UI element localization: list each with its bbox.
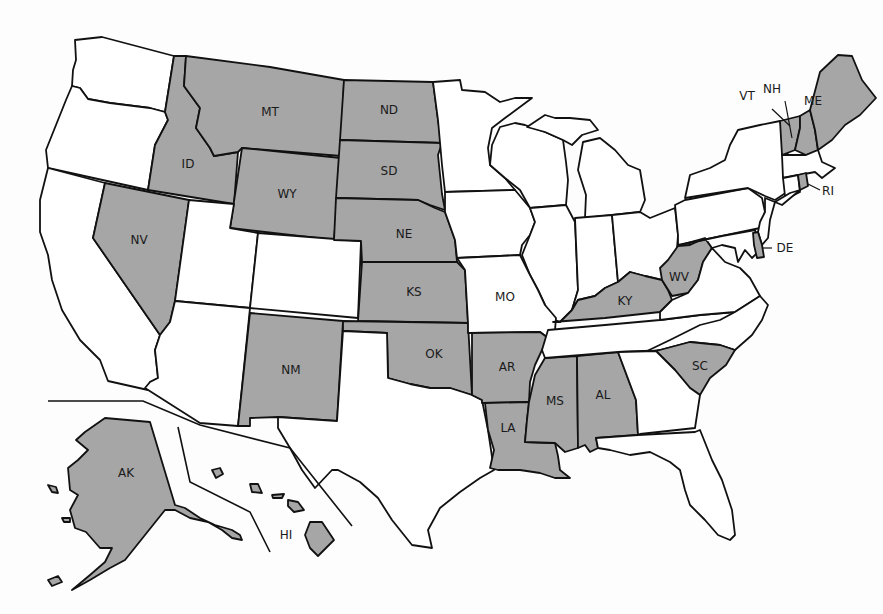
label-vt: VT (739, 89, 755, 103)
state-hi[interactable] (305, 522, 334, 556)
state-ak[interactable] (68, 418, 242, 590)
hawaii-island-kauai (212, 468, 223, 478)
state-ia[interactable] (445, 190, 535, 258)
alaska-island (48, 576, 62, 586)
label-sc: SC (692, 359, 708, 373)
state-fl[interactable] (596, 430, 735, 540)
label-ak: AK (118, 466, 135, 480)
label-ne: NE (396, 227, 413, 241)
us-states-map: MT ND ID WY SD NE NV KS MO NM OK AR LA M… (0, 0, 883, 614)
state-ny[interactable] (685, 121, 792, 200)
label-me: ME (804, 94, 822, 108)
label-id: ID (182, 157, 195, 171)
label-ms: MS (546, 394, 564, 408)
alaska-island (48, 485, 58, 493)
label-ky: KY (618, 294, 633, 308)
label-mo: MO (495, 290, 515, 304)
label-mt: MT (261, 105, 279, 119)
label-hi: HI (280, 528, 293, 542)
label-de: DE (777, 241, 794, 255)
label-ri: RI (822, 184, 834, 198)
hawaii-island-molokai (272, 494, 284, 498)
map-svg: MT ND ID WY SD NE NV KS MO NM OK AR LA M… (0, 0, 883, 614)
label-nh: NH (763, 82, 781, 96)
label-al: AL (596, 388, 611, 402)
alaska-island (62, 518, 70, 522)
leader-ri (808, 184, 820, 190)
hawaii-island-oahu (250, 484, 262, 493)
label-sd: SD (381, 164, 398, 178)
label-nv: NV (130, 233, 148, 247)
label-nm: NM (281, 363, 300, 377)
label-wy: WY (277, 187, 297, 201)
state-co[interactable] (250, 233, 361, 318)
state-ma[interactable] (782, 150, 835, 178)
hawaii-island-maui (288, 500, 304, 512)
label-wv: WV (669, 270, 690, 284)
state-ri[interactable] (798, 173, 808, 190)
label-ar: AR (499, 360, 516, 374)
label-la: LA (500, 421, 516, 435)
label-ok: OK (425, 347, 443, 361)
label-ks: KS (406, 285, 422, 299)
label-nd: ND (380, 103, 398, 117)
